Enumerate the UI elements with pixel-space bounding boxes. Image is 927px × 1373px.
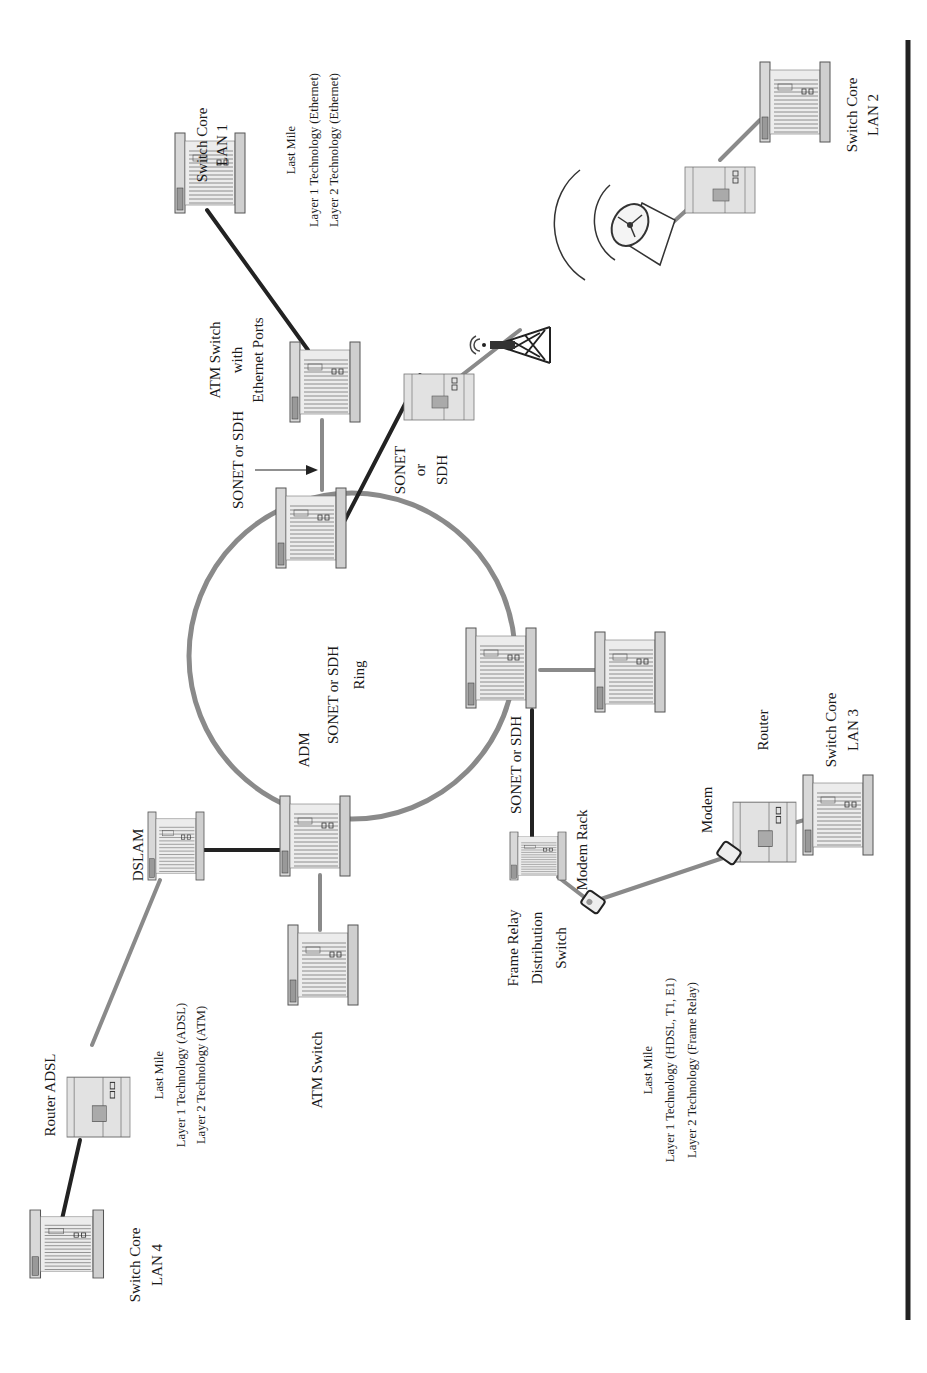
frame-relay-device (510, 832, 566, 880)
lan3-label-l2: LAN 3 (845, 709, 861, 751)
lan3-label-l1: Switch Core (823, 692, 839, 767)
atm-eth-label-l3: Ethernet Ports (250, 317, 266, 403)
last-mile-2-layer2: Layer 2 Technology (ATM) (194, 1006, 208, 1144)
link-router-lan2 (720, 120, 760, 160)
last-mile-1-layer1: Layer 1 Technology (Ethernet) (307, 73, 321, 227)
router-adsl-device (67, 1077, 130, 1137)
modem-label: Modem (699, 786, 715, 833)
lan4-label-l2: LAN 4 (149, 1243, 165, 1286)
last-mile-1-title: Last Mile (284, 125, 298, 174)
wireless-sonet-l2: or (412, 464, 428, 477)
switch-core-lan3-device (803, 775, 873, 855)
wireless-sonet-l3: SDH (434, 455, 450, 485)
modem-rack-label: Modem Rack (574, 809, 590, 891)
ring-label-l1: SONET or SDH (325, 646, 341, 744)
last-mile-3-layer1: Layer 1 Technology (HDSL, T1, E1) (663, 978, 677, 1162)
link-router-adsl-lan4 (60, 1140, 80, 1228)
lan4-label-l1: Switch Core (127, 1227, 143, 1302)
switch-core-lan1-device (175, 133, 245, 213)
router-lan3-device (733, 802, 796, 862)
fr-label-l2: Distribution (529, 911, 545, 984)
lan1-label-l1: Switch Core (194, 107, 210, 182)
adm-left-device (280, 796, 350, 876)
link-dslam-router-adsl (92, 880, 160, 1045)
router-adsl-label: Router ADSL (42, 1054, 58, 1137)
adm-right-device (466, 628, 536, 708)
fr-label-l3: Switch (553, 927, 569, 969)
link-last-mile-hdsl (598, 858, 723, 900)
wireless-sonet-l1: SONET (392, 446, 408, 494)
satellite-dish-icon (554, 170, 675, 280)
lan2-label-l1: Switch Core (844, 77, 860, 152)
atm-eth-label-l2: with (229, 346, 245, 373)
atm-switch-device (288, 925, 358, 1005)
atm-switch-eth-device (290, 342, 360, 422)
switch-core-lan2-device (760, 62, 830, 142)
fr-label-l1: Frame Relay (505, 909, 521, 987)
ring-label-l2: Ring (351, 660, 367, 690)
last-mile-1-layer2: Layer 2 Technology (Ethernet) (327, 73, 341, 227)
lan1-label-l2: LAN 1 (214, 124, 230, 166)
router-lan2-device (685, 167, 755, 213)
switch-core-lan4-device (30, 1210, 104, 1278)
dslam-label: DSLAM (130, 829, 146, 882)
adm-right-2-device (595, 632, 665, 712)
lan2-label-l2: LAN 2 (865, 94, 881, 136)
modem-rack-icon (580, 890, 606, 915)
adm-top-device (276, 488, 346, 568)
atm-eth-label-l1: ATM Switch (207, 321, 223, 399)
atm-switch-label: ATM Switch (309, 1031, 325, 1109)
wireless-router-device (404, 374, 474, 420)
last-mile-2-title: Last Mile (152, 1050, 166, 1099)
last-mile-2-layer1: Layer 1 Technology (ADSL) (174, 1003, 188, 1147)
adm-label: ADM (296, 732, 312, 767)
signal-wave (554, 170, 585, 280)
fr-sonet-label: SONET or SDH (508, 716, 524, 814)
arrow-head-icon (306, 465, 318, 475)
network-diagram: Switch Core LAN 1 ATM Switch with Ethern… (0, 0, 927, 1373)
dslam-device (148, 812, 204, 880)
last-mile-3-layer2: Layer 2 Technology (Frame Relay) (685, 982, 699, 1158)
router-label: Router (755, 710, 771, 751)
top-sonet-label: SONET or SDH (230, 411, 246, 509)
last-mile-3-title: Last Mile (641, 1045, 655, 1094)
